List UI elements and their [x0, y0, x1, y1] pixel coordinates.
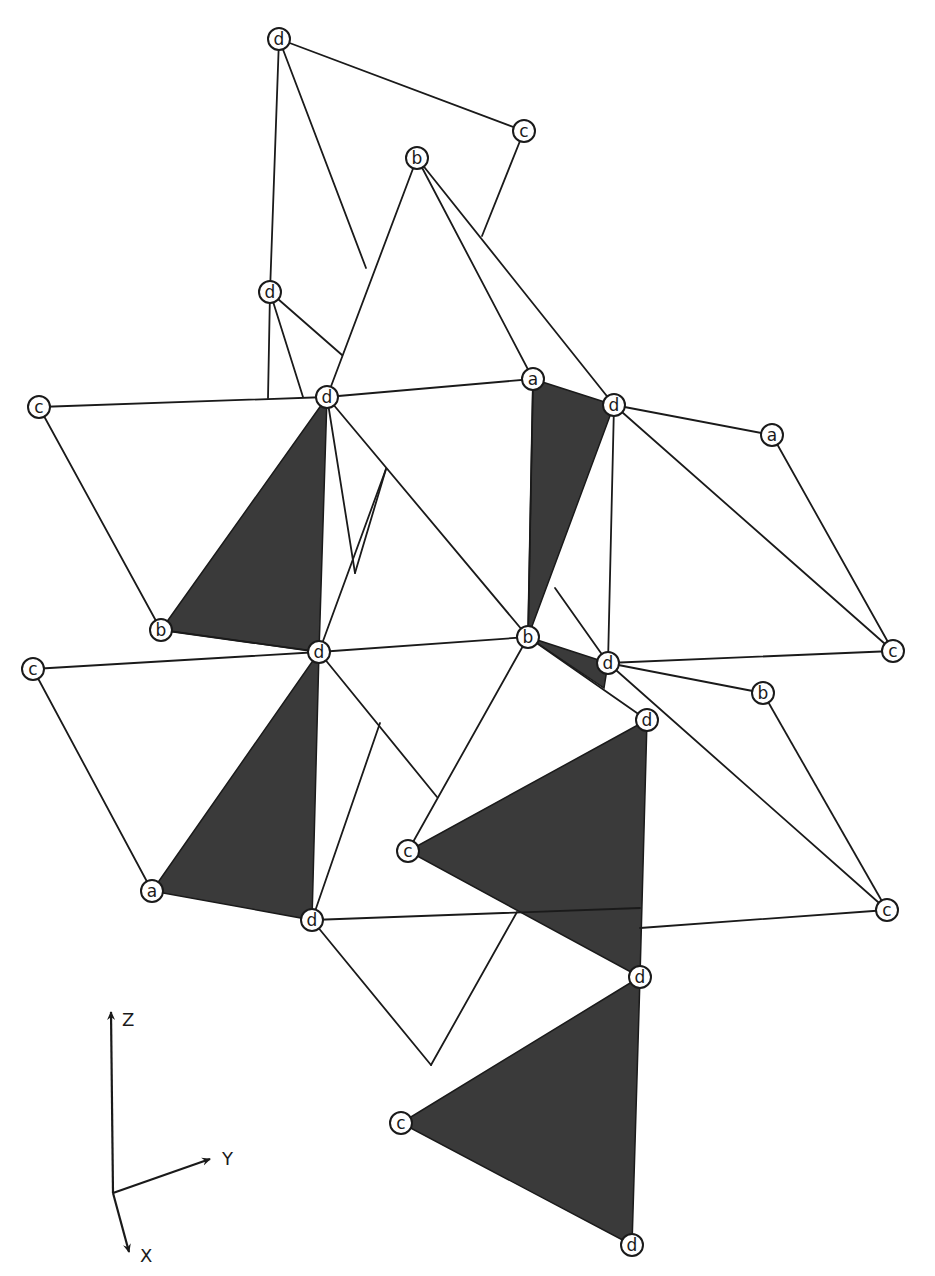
z-axis-label: Z	[122, 1009, 134, 1030]
bond-line	[39, 397, 327, 407]
atom-node-b: b	[150, 619, 172, 641]
atom-node-d: d	[629, 966, 651, 988]
atom-node-d: d	[259, 281, 281, 303]
atom-label: b	[412, 148, 423, 168]
atom-label: c	[34, 397, 43, 417]
bond-line	[279, 39, 366, 268]
bond-line	[417, 158, 614, 405]
atom-label: d	[322, 387, 333, 407]
atom-node-a: a	[761, 424, 783, 446]
coordinate-axes: Z Y X	[111, 1009, 234, 1266]
atom-node-d: d	[301, 909, 323, 931]
atom-node-d: d	[316, 386, 338, 408]
x-axis-arrow	[113, 1193, 129, 1252]
atom-node-a: a	[522, 368, 544, 390]
atom-label: c	[403, 841, 412, 861]
atom-label: a	[767, 425, 777, 445]
x-axis-label: X	[140, 1245, 152, 1266]
atom-label: d	[627, 1235, 638, 1255]
atom-label: c	[28, 659, 37, 679]
bond-line	[614, 405, 772, 435]
atom-node-c: c	[876, 899, 898, 921]
bond-line	[270, 292, 303, 397]
atom-node-b: b	[752, 682, 774, 704]
atom-node-d: d	[268, 28, 290, 50]
crystal-structure-diagram: dcbdacddabbddccbdcadcdcd Z Y X	[0, 0, 935, 1276]
bond-line	[319, 652, 437, 797]
atom-label: d	[307, 910, 318, 930]
atom-label: c	[519, 121, 528, 141]
atom-label: a	[528, 369, 538, 389]
bond-line	[482, 131, 524, 236]
atom-node-c: c	[882, 640, 904, 662]
z-axis-arrow	[111, 1012, 113, 1193]
bond-line	[608, 663, 887, 910]
atom-node-c: c	[397, 840, 419, 862]
bond-line	[312, 920, 431, 1065]
bond-line	[528, 637, 647, 720]
bond-line	[608, 663, 763, 693]
atom-label: c	[882, 900, 891, 920]
atom-node-d: d	[636, 709, 658, 731]
atom-label: d	[274, 29, 285, 49]
shaded-tetrahedron-face	[152, 652, 319, 920]
bond-line	[270, 39, 279, 292]
atom-node-a: a	[141, 880, 163, 902]
shaded-tetrahedron-face	[528, 379, 614, 637]
bond-line	[327, 397, 528, 637]
atom-node-c: c	[28, 396, 50, 418]
atom-node-c: c	[513, 120, 535, 142]
atom-label: d	[603, 653, 614, 673]
bond-line	[279, 39, 524, 131]
bond-line	[33, 652, 319, 669]
atom-node-b: b	[406, 147, 428, 169]
atom-label: d	[314, 642, 325, 662]
bond-line	[319, 469, 386, 652]
bond-line	[355, 469, 386, 573]
bond-line	[268, 292, 270, 398]
bond-line	[33, 669, 152, 891]
bond-line	[319, 637, 528, 652]
bond-line	[417, 158, 533, 379]
bond-line	[608, 405, 614, 663]
shaded-tetrahedron-face	[161, 397, 327, 652]
atom-label: b	[523, 627, 534, 647]
atom-node-d: d	[597, 652, 619, 674]
atom-label: d	[635, 967, 646, 987]
bond-line	[614, 405, 893, 651]
bond-line	[327, 158, 417, 397]
y-axis-arrow	[113, 1159, 210, 1193]
bond-line	[327, 397, 355, 573]
atom-label: c	[888, 641, 897, 661]
bond-line	[772, 435, 893, 651]
y-axis-label: Y	[221, 1148, 234, 1169]
atom-node-d: d	[603, 394, 625, 416]
atom-label: a	[147, 881, 157, 901]
atom-label: d	[609, 395, 620, 415]
shaded-tetrahedron-face	[401, 977, 640, 1245]
bond-line	[327, 379, 533, 397]
bond-line	[431, 912, 517, 1065]
bond-edges	[33, 39, 893, 1065]
bond-line	[39, 407, 161, 630]
atom-label: b	[156, 620, 167, 640]
atom-node-c: c	[22, 658, 44, 680]
atom-node-b: b	[517, 626, 539, 648]
bond-line	[763, 693, 887, 910]
bond-line	[312, 723, 380, 920]
atom-node-d: d	[621, 1234, 643, 1256]
bond-line	[640, 910, 887, 928]
bond-line	[608, 651, 893, 663]
shaded-tetrahedron-face	[408, 720, 647, 977]
atom-node-d: d	[308, 641, 330, 663]
atom-label: c	[396, 1113, 405, 1133]
atom-label: d	[265, 282, 276, 302]
atom-node-c: c	[390, 1112, 412, 1134]
atom-label: d	[642, 710, 653, 730]
atom-label: b	[758, 683, 769, 703]
